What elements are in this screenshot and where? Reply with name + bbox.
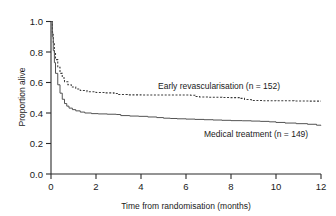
series-annotation-medical-treatment: Medical treatment (n = 149) — [204, 129, 308, 139]
x-tick-label: 2 — [93, 181, 98, 192]
chart-svg: 1.0 0.8 0.6 0.4 0.2 0.0 0 2 4 6 8 10 12 — [0, 0, 336, 216]
y-tick-label: 0.4 — [30, 108, 43, 119]
x-tick-label: 8 — [228, 181, 233, 192]
y-tick-label: 0.2 — [30, 138, 43, 149]
y-tick-label: 0.6 — [30, 77, 43, 88]
x-tick-label: 6 — [183, 181, 188, 192]
x-tick-label: 12 — [316, 181, 327, 192]
x-tick-label: 0 — [48, 181, 53, 192]
x-tick-label: 10 — [271, 181, 282, 192]
y-axis-title: Proportion alive — [17, 67, 27, 126]
series-annotation-early-revascularisation: Early revascularisation (n = 152) — [158, 81, 280, 91]
y-tick-label: 0.8 — [30, 47, 43, 58]
y-tick-label: 1.0 — [30, 16, 43, 27]
kaplan-meier-survival-chart: 1.0 0.8 0.6 0.4 0.2 0.0 0 2 4 6 8 10 12 — [0, 0, 336, 216]
y-tick-label: 0.0 — [30, 169, 43, 180]
x-tick-label: 4 — [138, 181, 143, 192]
x-axis-title: Time from randomisation (months) — [121, 201, 251, 211]
